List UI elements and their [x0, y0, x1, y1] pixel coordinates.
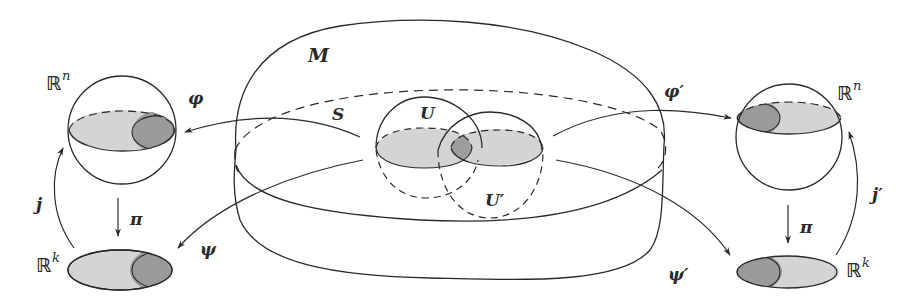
label-left-rk: ℝ [36, 254, 52, 276]
label-left-rn-exp: n [62, 68, 70, 83]
left-rn-sphere [68, 76, 192, 184]
label-right-rn-exp: n [853, 78, 861, 93]
psi-prime-arrow [556, 160, 730, 255]
label-j: j [33, 194, 43, 214]
right-rk-disk [718, 252, 837, 292]
label-pi-right: π [799, 217, 813, 237]
j-right-arrow [836, 132, 858, 255]
label-phi-prime: φ′ [664, 81, 684, 101]
label-pi-left: π [129, 209, 143, 229]
left-rk-disk [68, 248, 190, 292]
label-left-rn: ℝ [46, 72, 62, 94]
label-psi: ψ [200, 239, 217, 259]
phi-prime-arrow [553, 110, 731, 136]
label-u-prime: U′ [485, 190, 505, 210]
label-u: U [420, 103, 436, 123]
right-rn-sphere [720, 84, 842, 190]
label-right-rk-exp: k [862, 255, 870, 270]
label-right-rn: ℝ [837, 82, 853, 104]
label-s: S [332, 104, 344, 124]
label-right-rk: ℝ [846, 259, 862, 281]
label-psi-prime: ψ′ [668, 264, 689, 284]
label-left-rk-exp: k [52, 250, 60, 265]
label-m: M [307, 44, 330, 66]
chart-domains [376, 97, 543, 218]
label-j-prime: j′ [869, 184, 883, 204]
j-left-arrow [54, 148, 74, 248]
manifold-diagram: M S U U′ φ ψ φ′ ψ′ π π j j′ ℝ n ℝ k ℝ n … [0, 0, 923, 307]
labels: M S U U′ φ ψ φ′ ψ′ π π j j′ ℝ n ℝ k ℝ n … [33, 44, 883, 284]
psi-arrow [178, 160, 363, 248]
label-phi: φ [188, 88, 204, 108]
